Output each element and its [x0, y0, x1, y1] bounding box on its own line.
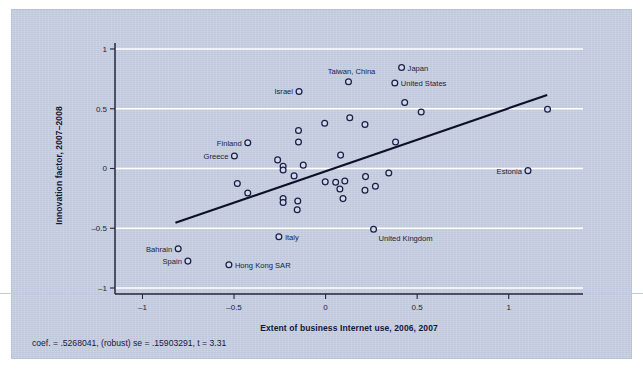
data-point-34[interactable] [337, 186, 343, 192]
y-tick-label-4: –1 [98, 284, 107, 293]
point-label-bahrain: Bahrain [146, 245, 172, 254]
x-tick-label-2: 0 [323, 303, 328, 312]
data-point-19[interactable] [296, 139, 302, 145]
point-label-greece: Greece [203, 152, 228, 161]
x-tick-label-4: 1 [506, 303, 511, 312]
point-label-israel: Israel [274, 87, 293, 96]
data-point-30[interactable] [322, 179, 328, 185]
data-point-27[interactable] [386, 170, 392, 176]
data-point-36[interactable] [245, 190, 251, 196]
data-point-22[interactable] [275, 157, 281, 163]
data-point-spain[interactable] [185, 258, 191, 264]
data-point-united-states[interactable] [392, 80, 398, 86]
regression-fit-line [175, 95, 547, 223]
x-tick-label-3: 0.5 [412, 303, 424, 312]
y-axis-title: Innovation factor, 2007–2008 [54, 106, 64, 225]
data-point-35[interactable] [362, 187, 368, 193]
y-tick-label-0: 1 [103, 45, 108, 54]
data-point-29[interactable] [234, 181, 240, 187]
data-point-26[interactable] [291, 173, 297, 179]
x-axis-title: Extent of business Internet use, 2006, 2… [260, 323, 438, 333]
data-point-33[interactable] [373, 183, 379, 189]
y-tick-label-3: –0.5 [91, 224, 107, 233]
x-tick-label-1: –0.5 [226, 303, 242, 312]
data-point-21[interactable] [338, 152, 344, 158]
data-point-25[interactable] [300, 162, 306, 168]
y-tick-label-1: 0.5 [96, 105, 108, 114]
data-point-18[interactable] [296, 128, 302, 134]
x-tick-label-0: –1 [138, 303, 147, 312]
data-point-israel[interactable] [296, 89, 302, 95]
data-point-estonia[interactable] [525, 168, 531, 174]
data-point-16[interactable] [362, 122, 368, 128]
data-point-greece[interactable] [231, 153, 237, 159]
data-point-20[interactable] [393, 139, 399, 145]
point-label-spain: Spain [162, 257, 181, 266]
data-point-14[interactable] [545, 106, 551, 112]
data-point-39[interactable] [280, 200, 286, 206]
point-label-japan: Japan [408, 64, 429, 73]
data-point-28[interactable] [363, 174, 369, 180]
data-point-13[interactable] [418, 109, 424, 115]
data-point-12[interactable] [402, 100, 408, 106]
data-point-italy[interactable] [276, 234, 282, 240]
point-label-taiwan-china: Taiwan, China [328, 67, 376, 76]
scatter-plot-figure: 10.50–0.5–1–1–0.500.51JapanUnited States… [0, 0, 643, 373]
point-label-hong-kong-sar: Hong Kong SAR [235, 261, 291, 270]
data-point-bahrain[interactable] [175, 246, 181, 252]
data-point-taiwan-china[interactable] [346, 79, 352, 85]
point-label-united-kingdom: United Kingdom [379, 234, 433, 243]
point-label-united-states: United States [401, 79, 447, 88]
y-tick-label-2: 0 [103, 164, 108, 173]
data-point-15[interactable] [347, 115, 353, 121]
regression-stats-caption: coef. = .5268041, (robust) se = .1590329… [32, 338, 226, 348]
data-point-41[interactable] [294, 207, 300, 213]
data-point-finland[interactable] [245, 140, 251, 146]
scatter-plot-svg: 10.50–0.5–1–1–0.500.51JapanUnited States… [0, 0, 643, 373]
data-point-32[interactable] [342, 178, 348, 184]
data-point-hong-kong-sar[interactable] [226, 262, 232, 268]
data-point-united-kingdom[interactable] [371, 226, 377, 232]
point-label-estonia: Estonia [497, 167, 523, 176]
data-point-40[interactable] [295, 198, 301, 204]
data-point-37[interactable] [340, 196, 346, 202]
data-point-31[interactable] [333, 179, 339, 185]
data-point-17[interactable] [322, 120, 328, 126]
point-label-italy: Italy [285, 233, 299, 242]
data-point-24[interactable] [280, 167, 286, 173]
point-label-finland: Finland [217, 139, 242, 148]
data-point-japan[interactable] [399, 65, 405, 71]
